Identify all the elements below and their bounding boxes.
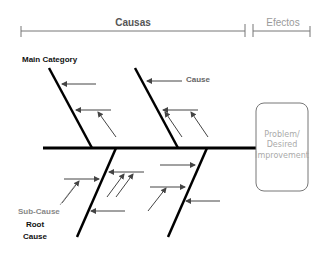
upper-left-causes: [62, 84, 116, 137]
effect-box: Problem/ Desired Improvement: [255, 103, 309, 191]
sub-cause-arrow: [116, 174, 133, 197]
effect-text-line3: Improvement: [255, 151, 309, 160]
main-category-label: Main Category: [22, 55, 78, 64]
sub-cause-arrow: [62, 181, 79, 203]
sub-cause-arrow: [98, 112, 116, 137]
bone-upper-right: [135, 68, 178, 148]
sub-cause-arrow: [148, 188, 166, 211]
sub-cause-label: Sub-Cause: [18, 207, 60, 216]
cause-label: Cause: [186, 75, 211, 84]
causes-header: Causas: [21, 17, 245, 37]
causes-label: Causas: [115, 17, 151, 28]
root-cause-label-line2: Cause: [23, 232, 48, 241]
sub-cause-arrow: [191, 112, 208, 137]
fishbone-diagram: Causas Efectos Main Category Cause Sub-C…: [0, 0, 326, 256]
sub-cause-arrow: [107, 174, 124, 197]
effects-header: Efectos: [253, 17, 310, 37]
bone-lower-right: [168, 148, 207, 237]
effects-label: Efectos: [266, 17, 299, 28]
lower-right-causes: [148, 165, 220, 211]
effect-text-line2: Desired: [267, 140, 298, 149]
bone-upper-left: [49, 68, 92, 148]
sub-cause-arrow: [165, 112, 182, 137]
sub-cause-pointer: [60, 184, 76, 205]
root-cause-label-line1: Root: [26, 220, 45, 229]
effect-text-line1: Problem/: [264, 130, 300, 139]
